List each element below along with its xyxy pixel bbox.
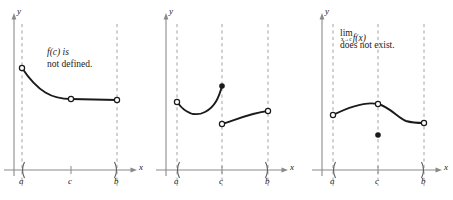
panel-f-of-c-not-defined: y x a c b f(c) is not defined. bbox=[0, 0, 151, 200]
tick-label-a: a bbox=[19, 176, 24, 186]
open-circle-at-c bbox=[375, 101, 380, 106]
panel-3-graph bbox=[302, 0, 453, 200]
x-axis-label: x bbox=[444, 162, 448, 172]
panel-limit-does-not-exist: y x a c b lim x→c f(x) does not exist. bbox=[151, 0, 302, 200]
caption-line-1: f(c) is bbox=[47, 47, 92, 59]
open-circle-at-a bbox=[174, 99, 179, 104]
function-curve bbox=[22, 68, 117, 100]
open-circle-at-b bbox=[265, 108, 270, 113]
y-axis-label: y bbox=[17, 6, 21, 16]
function-curve-left bbox=[177, 86, 222, 114]
open-circle-at-c bbox=[68, 96, 73, 101]
filled-dot-at-c bbox=[375, 132, 381, 138]
open-circle-at-b bbox=[421, 120, 426, 125]
y-axis-label: y bbox=[325, 6, 329, 16]
panel-1-caption: f(c) is not defined. bbox=[47, 47, 92, 70]
tick-label-a: a bbox=[174, 176, 179, 186]
x-axis-arrow bbox=[131, 168, 138, 173]
open-circle-at-a bbox=[19, 65, 24, 70]
x-axis-label: x bbox=[139, 162, 143, 172]
x-axis-label: x bbox=[290, 162, 294, 172]
tick-label-b: b bbox=[265, 176, 270, 186]
tick-label-c: c bbox=[68, 176, 72, 186]
x-axis-arrow bbox=[282, 168, 289, 173]
continuity-figure: y x a c b f(c) is not defined. bbox=[0, 0, 453, 200]
y-axis-label: y bbox=[169, 6, 173, 16]
tick-label-c: c bbox=[219, 176, 223, 186]
tick-label-b: b bbox=[114, 176, 119, 186]
tick-label-a: a bbox=[330, 176, 335, 186]
open-circle-at-b bbox=[114, 97, 119, 102]
caption-line-2: not defined. bbox=[47, 59, 92, 71]
y-axis-arrow bbox=[164, 13, 169, 20]
open-circle-at-c bbox=[219, 121, 224, 126]
function-curve-right bbox=[222, 111, 268, 124]
tick-label-c: c bbox=[375, 176, 379, 186]
y-axis-arrow bbox=[12, 13, 17, 20]
panel-limit-not-equal-f-of-c: y x a c b lim x→c f(x) ≠ f(c) bbox=[302, 0, 453, 200]
panel-2-graph bbox=[151, 0, 302, 200]
filled-dot-at-c bbox=[219, 83, 225, 89]
open-circle-at-a bbox=[330, 112, 335, 117]
tick-label-b: b bbox=[421, 176, 426, 186]
panel-1-graph bbox=[0, 0, 151, 200]
x-axis-arrow bbox=[436, 168, 443, 173]
y-axis-arrow bbox=[320, 13, 325, 20]
